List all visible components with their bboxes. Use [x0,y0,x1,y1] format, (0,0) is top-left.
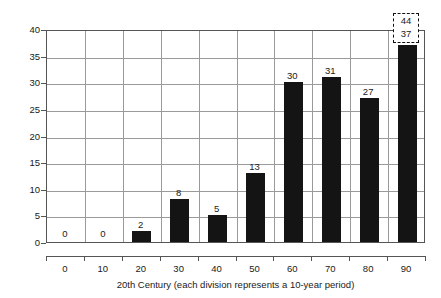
x-axis-tick-label: 50 [235,263,273,274]
x-axis-tick-mark [311,256,312,261]
x-axis-tick-label: 0 [46,263,84,274]
bar [322,77,341,242]
bar [208,215,227,242]
y-axis-tick-label: 40 [6,25,40,35]
x-axis-tick-mark [387,256,388,261]
x-axis-title: 20th Century (each division represents a… [46,279,425,291]
bar-value-label: 0 [84,229,122,239]
y-axis-tick-label: 35 [6,52,40,62]
y-axis-tick-label: 10 [6,185,40,195]
x-axis-tick-label: 80 [349,263,387,274]
y-axis-tick-label: 0 [6,238,40,248]
callout-lower-value: 37 [394,28,418,39]
gridline-horizontal [47,58,424,59]
bar-value-label: 5 [198,204,236,214]
x-axis-tick-mark [122,256,123,261]
bar [360,98,379,242]
gridline-vertical [237,31,238,242]
bar [246,173,265,242]
x-axis-tick-mark [273,256,274,261]
y-axis-tick-label: 25 [6,105,40,115]
bar-value-label: 8 [160,188,198,198]
y-axis-tick-label: 20 [6,132,40,142]
y-axis-tick-label: 5 [6,211,40,221]
gridline-vertical [274,31,275,242]
bar-value-label: 30 [273,71,311,81]
bar-value-label: 27 [349,87,387,97]
bar-value-label: 31 [311,66,349,76]
x-axis-tick-label: 30 [160,263,198,274]
gridline-vertical [350,31,351,242]
callout-upper-value: 44 [394,15,418,26]
bar-value-label: 2 [122,220,160,230]
x-axis-tick-label: 60 [273,263,311,274]
x-axis-tick-label: 20 [122,263,160,274]
x-axis-tick-mark [198,256,199,261]
y-axis-tick-label: 15 [6,158,40,168]
gridline-vertical [123,31,124,242]
bar-chart-figure: Count of high water episodes over 1.10m … [0,0,441,298]
gridline-vertical [85,31,86,242]
decade-90-callout: 44 37 [393,13,419,43]
bar-value-label: 13 [235,162,273,172]
bar [398,45,417,242]
gridline-horizontal [47,84,424,85]
bar [284,82,303,242]
x-axis-tick-label: 10 [84,263,122,274]
x-axis-tick-mark [425,256,426,261]
x-axis-tick-mark [46,256,47,261]
bar [170,199,189,242]
gridline-vertical [388,31,389,242]
x-axis-tick-mark [84,256,85,261]
x-axis-tick-mark [236,256,237,261]
x-axis-tick-mark [160,256,161,261]
bar [132,231,151,242]
gridline-vertical [312,31,313,242]
gridline-vertical [161,31,162,242]
x-axis-tick-label: 90 [387,263,425,274]
y-axis-tick-mark [41,243,46,244]
x-axis-tick-label: 40 [198,263,236,274]
x-axis-tick-label: 70 [311,263,349,274]
page-edge-artifact [18,294,428,298]
y-axis-tick-label: 30 [6,78,40,88]
bar-value-label: 0 [46,229,84,239]
x-axis-tick-mark [349,256,350,261]
